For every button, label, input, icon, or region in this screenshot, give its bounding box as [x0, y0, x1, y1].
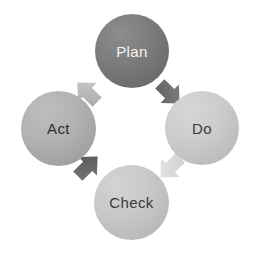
cycle-node-do[interactable]: Do [165, 91, 239, 165]
cycle-node-act[interactable]: Act [21, 91, 96, 166]
cycle-node-plan-label: Plan [116, 43, 148, 60]
pdca-cycle-diagram: Plan Do Check Act [0, 0, 256, 255]
cycle-node-check-label: Check [109, 194, 154, 211]
cycle-node-do-label: Do [192, 120, 212, 137]
cycle-node-plan[interactable]: Plan [95, 14, 169, 88]
cycle-node-act-label: Act [47, 120, 70, 137]
cycle-node-check[interactable]: Check [94, 165, 169, 240]
